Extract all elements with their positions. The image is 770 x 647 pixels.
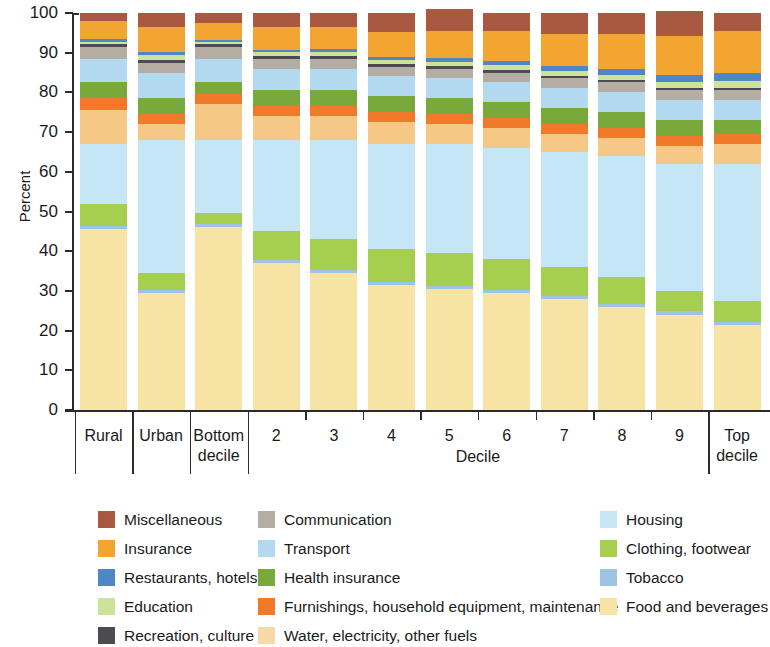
bar-7[interactable]: [541, 13, 588, 410]
bar-segment: [253, 106, 300, 116]
legend-swatch-icon: [98, 627, 115, 644]
x-axis-minor-tick: [363, 412, 365, 420]
bar-8[interactable]: [598, 13, 645, 410]
plot-area: [72, 13, 770, 410]
legend-item[interactable]: Education: [98, 598, 193, 615]
x-axis-title: Decile: [418, 448, 538, 466]
bar-segment: [310, 27, 357, 49]
legend-item[interactable]: Housing: [600, 511, 683, 528]
bar-segment: [426, 144, 473, 253]
bar-segment: [656, 315, 703, 410]
legend-item[interactable]: Tobacco: [600, 569, 684, 586]
bar-segment: [253, 90, 300, 106]
x-axis-minor-tick: [593, 412, 595, 420]
bar-segment: [310, 116, 357, 140]
x-axis-minor-tick: [420, 412, 422, 420]
bar-bottom-decile[interactable]: [195, 13, 242, 410]
chart-figure: Percent 0102030405060708090100 RuralUrba…: [0, 0, 770, 647]
bar-segment: [656, 120, 703, 136]
bar-segment: [483, 293, 530, 410]
bar-segment: [598, 112, 645, 128]
legend-label: Communication: [284, 511, 392, 528]
bar-segment: [310, 59, 357, 69]
bar-segment: [541, 299, 588, 410]
legend-item[interactable]: Water, electricity, other fuels: [258, 627, 477, 644]
bar-segment: [483, 148, 530, 259]
bar-segment: [426, 9, 473, 31]
bar-segment: [310, 90, 357, 106]
y-axis-tick-label: 80: [12, 83, 58, 100]
y-axis-tick-label: 30: [12, 282, 58, 299]
legend-label: Transport: [284, 540, 350, 557]
bar-segment: [426, 253, 473, 286]
bar-segment: [138, 293, 185, 410]
legend-label: Housing: [626, 511, 683, 528]
bar-segment: [368, 112, 415, 122]
bar-segment: [714, 301, 761, 322]
bar-top-decile[interactable]: [714, 13, 761, 410]
y-axis-tick-label: 50: [12, 203, 58, 220]
legend-swatch-icon: [258, 598, 275, 615]
legend-item[interactable]: Insurance: [98, 540, 192, 557]
bar-segment: [368, 13, 415, 32]
legend-swatch-icon: [98, 598, 115, 615]
y-axis-tick-label: 0: [12, 401, 58, 418]
x-axis-minor-tick: [305, 412, 307, 420]
legend-label: Insurance: [124, 540, 192, 557]
bar-segment: [656, 90, 703, 100]
bar-segment: [426, 124, 473, 144]
y-axis-tick-label: 70: [12, 123, 58, 140]
bar-segment: [195, 213, 242, 224]
legend-item[interactable]: Furnishings, household equipment, mainte…: [258, 598, 618, 615]
bar-urban[interactable]: [138, 13, 185, 410]
bar-6[interactable]: [483, 13, 530, 410]
bar-segment: [541, 88, 588, 108]
bar-segment: [310, 239, 357, 270]
bar-segment: [656, 136, 703, 146]
legend-item[interactable]: Clothing, footwear: [600, 540, 751, 557]
bar-segment: [714, 325, 761, 410]
bar-segment: [714, 81, 761, 88]
legend-swatch-icon: [600, 569, 617, 586]
bar-segment: [195, 82, 242, 94]
x-axis-minor-tick: [651, 412, 653, 420]
bar-segment: [483, 82, 530, 102]
bar-rural[interactable]: [80, 13, 127, 410]
legend-item[interactable]: Restaurants, hotels: [98, 569, 258, 586]
legend-item[interactable]: Food and beverages: [600, 598, 768, 615]
bar-segment: [368, 96, 415, 112]
bar-segment: [80, 110, 127, 144]
bar-segment: [426, 289, 473, 410]
bar-4[interactable]: [368, 13, 415, 410]
y-axis-tick-label: 10: [12, 361, 58, 378]
bar-segment: [80, 47, 127, 59]
bar-segment: [598, 13, 645, 34]
bar-segment: [138, 63, 185, 73]
bar-segment: [714, 13, 761, 31]
bar-segment: [368, 144, 415, 249]
legend-item[interactable]: Miscellaneous: [98, 511, 222, 528]
legend-item[interactable]: Communication: [258, 511, 392, 528]
bar-segment: [368, 67, 415, 77]
legend-item[interactable]: Health insurance: [258, 569, 400, 586]
bar-segment: [426, 31, 473, 58]
bar-segment: [541, 152, 588, 267]
legend-item[interactable]: Transport: [258, 540, 350, 557]
bar-segment: [195, 59, 242, 83]
bar-3[interactable]: [310, 13, 357, 410]
bar-segment: [714, 31, 761, 73]
bar-segment: [195, 227, 242, 410]
bar-segment: [598, 82, 645, 92]
legend-swatch-icon: [98, 540, 115, 557]
bar-segment: [656, 291, 703, 312]
bar-segment: [80, 21, 127, 39]
bar-segment: [80, 229, 127, 410]
legend-item[interactable]: Recreation, culture: [98, 627, 254, 644]
bar-segment: [310, 140, 357, 239]
bar-segment: [195, 47, 242, 59]
bar-2[interactable]: [253, 13, 300, 410]
legend-label: Restaurants, hotels: [124, 569, 258, 586]
bar-5[interactable]: [426, 9, 473, 410]
bar-9[interactable]: [656, 11, 703, 410]
bar-segment: [426, 114, 473, 124]
